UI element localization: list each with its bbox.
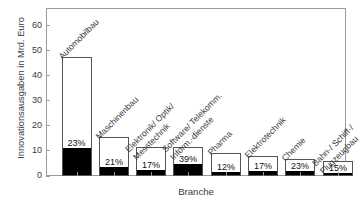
y-tick-label: 10 bbox=[18, 145, 42, 155]
x-tick-mark bbox=[226, 172, 227, 176]
y-tick-label: 40 bbox=[18, 70, 42, 80]
x-tick-mark bbox=[263, 172, 264, 176]
y-tick-mark bbox=[46, 176, 50, 177]
bar-value-label: 17% bbox=[134, 160, 168, 170]
bar-value-label: 17% bbox=[246, 161, 280, 171]
y-tick-mark bbox=[46, 150, 50, 151]
y-tick-label: 50 bbox=[18, 45, 42, 55]
x-tick-mark bbox=[77, 172, 78, 176]
y-tick-mark bbox=[46, 25, 50, 26]
y-tick-label: 0 bbox=[18, 170, 42, 180]
y-tick-mark bbox=[46, 100, 50, 101]
x-tick-mark bbox=[300, 172, 301, 176]
y-tick-mark bbox=[46, 50, 50, 51]
bar-value-label: 23% bbox=[60, 138, 94, 148]
y-tick-mark bbox=[46, 75, 50, 76]
y-tick-mark bbox=[46, 125, 50, 126]
x-axis-label: Branche bbox=[46, 186, 346, 197]
x-tick-mark bbox=[151, 172, 152, 176]
x-tick-mark bbox=[114, 172, 115, 176]
y-tick-label: 30 bbox=[18, 95, 42, 105]
bar-1 bbox=[62, 57, 92, 176]
y-tick-label: 60 bbox=[18, 20, 42, 30]
bar-value-label: 12% bbox=[209, 162, 243, 172]
x-tick-mark bbox=[188, 172, 189, 176]
bar-inner-segment bbox=[63, 148, 91, 175]
bar-value-label: 21% bbox=[97, 157, 131, 167]
y-tick-label: 20 bbox=[18, 120, 42, 130]
x-tick-mark bbox=[338, 172, 339, 176]
